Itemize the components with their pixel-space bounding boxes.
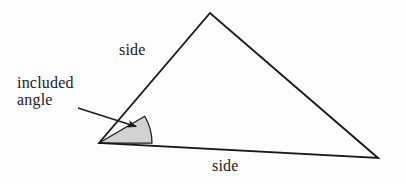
label-side-bottom: side (212, 157, 239, 174)
label-included-angle: included angle (17, 74, 74, 109)
figure-canvas: side side included angle (0, 0, 406, 184)
label-side-left: side (119, 41, 146, 58)
label-included-angle-line2: angle (17, 91, 74, 108)
included-angle-sector (99, 116, 152, 143)
label-included-angle-line1: included (17, 74, 74, 91)
